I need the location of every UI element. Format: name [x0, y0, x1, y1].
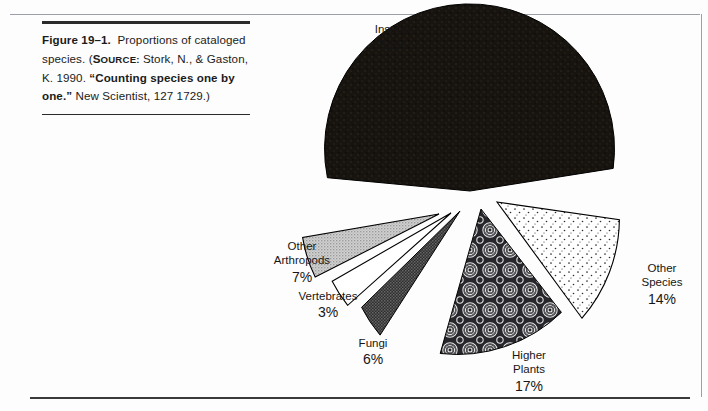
caption-space-1 — [111, 33, 118, 46]
page-border-top — [10, 14, 700, 15]
figure-caption-text: Figure 19–1. Proportions of cataloged sp… — [42, 31, 250, 106]
figure-caption-block: Figure 19–1. Proportions of cataloged sp… — [42, 21, 250, 115]
pie-slice-higher-plants — [440, 209, 561, 354]
slice-label-vertebrates: Vertebrates 3% — [285, 289, 371, 322]
slice-label-other-arthropods-name-1: Other — [256, 239, 348, 253]
source-label-rest: OURCE: — [101, 54, 140, 65]
slice-label-other-species: Other Species 14% — [627, 261, 697, 308]
page-rule-bottom — [30, 397, 690, 399]
pie-slice-fungi — [362, 211, 460, 335]
slice-label-other-arthropods: Other Arthropods 7% — [256, 239, 348, 286]
slice-label-insects-value: 53% — [354, 37, 432, 55]
figure-page: Figure 19–1. Proportions of cataloged sp… — [0, 0, 708, 411]
slice-label-other-arthropods-value: 7% — [256, 269, 348, 287]
slice-label-vertebrates-value: 3% — [285, 304, 371, 322]
slice-label-higher-plants-value: 17% — [490, 378, 568, 396]
pie-slice-other-species — [497, 202, 619, 318]
slice-label-fungi-value: 6% — [345, 351, 401, 369]
slice-label-other-species-name-2: Species — [627, 275, 697, 289]
slice-label-insects-name: Insects — [354, 22, 432, 36]
slice-label-higher-plants-name-1: Higher — [490, 348, 568, 362]
slice-label-higher-plants: Higher Plants 17% — [490, 348, 568, 395]
slice-label-vertebrates-name: Vertebrates — [285, 289, 371, 303]
page-border-right — [701, 14, 702, 397]
slice-label-fungi-name: Fungi — [345, 336, 401, 350]
source-label-first-letter: S — [93, 52, 101, 65]
figure-number: Figure 19–1. — [42, 33, 111, 46]
slice-label-insects: Insects 53% — [354, 22, 432, 55]
source-journal: New Scientist, 127 1729.) — [72, 89, 210, 102]
slice-label-higher-plants-name-2: Plants — [490, 362, 568, 376]
caption-rule-bottom — [42, 114, 250, 115]
slice-label-fungi: Fungi 6% — [345, 336, 401, 369]
caption-rule-top — [42, 21, 250, 24]
source-label: SOURCE: — [93, 54, 140, 65]
slice-label-other-species-name-1: Other — [627, 261, 697, 275]
slice-label-other-arthropods-name-2: Arthropods — [256, 253, 348, 267]
slice-label-other-species-value: 14% — [627, 291, 697, 309]
